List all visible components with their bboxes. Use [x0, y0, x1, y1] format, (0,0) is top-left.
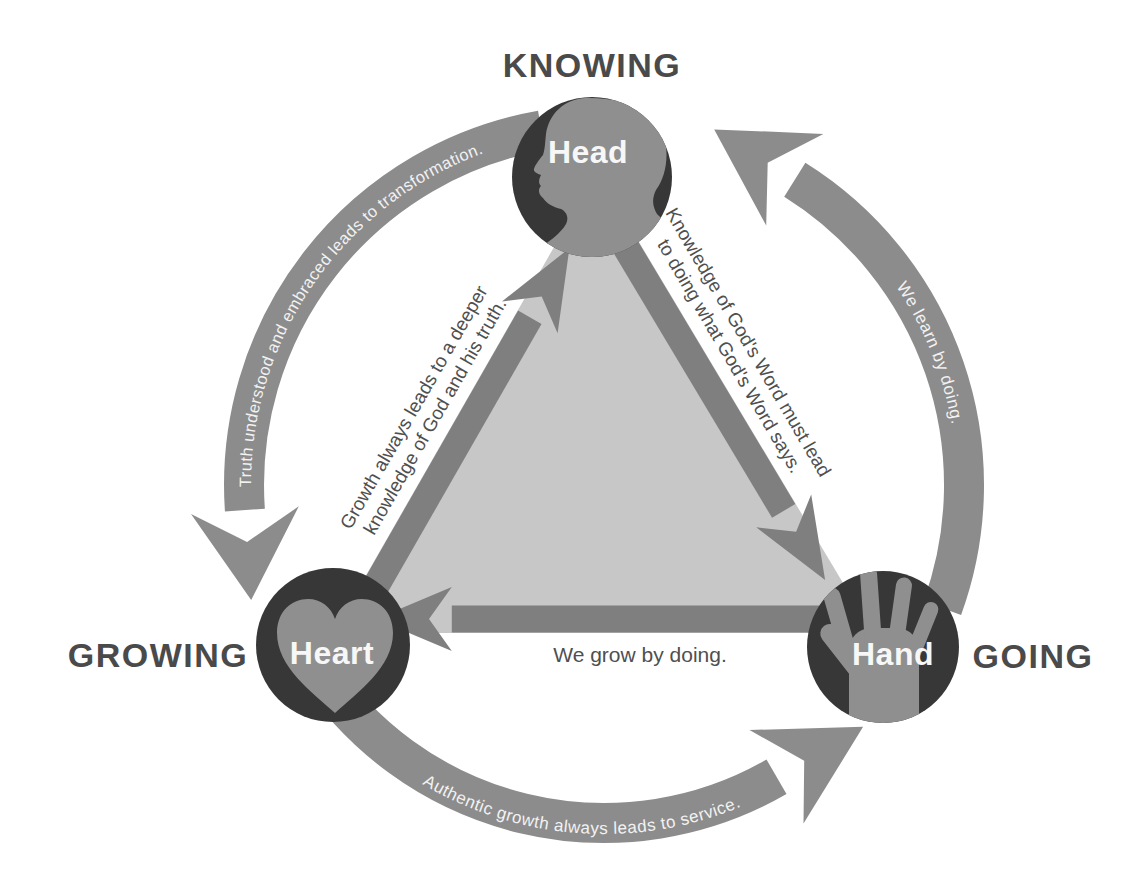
knowing-label: KNOWING	[503, 46, 682, 84]
triangle-label-hand-to-heart: We grow by doing.	[553, 643, 727, 666]
heart-node-label: Heart	[290, 635, 374, 671]
node-heart: Heart GROWING	[68, 568, 410, 722]
head-node-label: Head	[548, 134, 628, 170]
arrow-going-to-knowing	[795, 180, 964, 608]
growing-label: GROWING	[68, 636, 248, 674]
head-heart-hand-cycle-diagram: Truth understood and embraced leads to t…	[0, 0, 1144, 894]
going-label: GOING	[973, 637, 1094, 675]
hand-node-label: Hand	[852, 636, 934, 672]
arrowhead-knowing-to-growing	[191, 506, 299, 600]
